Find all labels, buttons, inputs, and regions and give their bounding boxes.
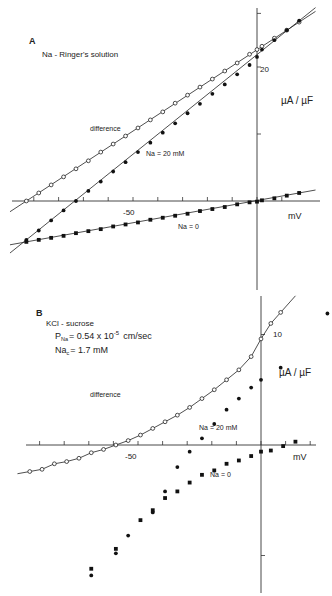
data-point-filled-square bbox=[223, 205, 227, 209]
panel-b-y-tick-label: 10 bbox=[273, 330, 282, 339]
data-point-filled-circle bbox=[99, 180, 103, 184]
data-point-open-circle bbox=[74, 167, 78, 171]
data-point-open-circle bbox=[102, 448, 106, 452]
data-point-filled-circle bbox=[326, 312, 330, 316]
data-point-filled-circle bbox=[297, 19, 301, 23]
data-point-filled-circle bbox=[126, 534, 130, 538]
data-point-filled-square bbox=[249, 454, 253, 458]
data-point-open-circle bbox=[126, 439, 130, 443]
data-point-filled-circle bbox=[223, 83, 227, 87]
data-point-open-circle bbox=[114, 443, 118, 447]
data-point-filled-square bbox=[86, 229, 90, 233]
panel-b-label-na0: Na = 0 bbox=[210, 471, 231, 478]
data-point-filled-circle bbox=[37, 229, 41, 233]
data-point-filled-circle bbox=[49, 219, 53, 223]
data-point-filled-square bbox=[37, 238, 41, 242]
data-point-filled-circle bbox=[163, 490, 167, 494]
data-point-filled-square bbox=[62, 234, 66, 238]
data-point-filled-circle bbox=[235, 72, 239, 76]
panel-a-y-unit: µA / µF bbox=[281, 95, 313, 106]
panel-b-label-difference: difference bbox=[90, 391, 121, 398]
data-point-open-circle bbox=[255, 48, 259, 52]
data-point-open-circle bbox=[223, 69, 227, 73]
data-point-open-circle bbox=[248, 52, 252, 56]
data-point-open-circle bbox=[139, 433, 143, 437]
data-point-filled-square bbox=[260, 198, 264, 202]
data-point-filled-square bbox=[136, 221, 140, 225]
data-point-filled-circle bbox=[136, 150, 140, 154]
data-point-filled-square bbox=[269, 449, 273, 453]
data-point-open-circle bbox=[136, 126, 140, 130]
data-point-filled-square bbox=[248, 200, 252, 204]
data-point-open-circle bbox=[99, 150, 103, 154]
data-point-filled-circle bbox=[249, 386, 253, 390]
data-point-open-circle bbox=[111, 142, 115, 146]
panel-b-pna: PNa= 0.54 x 10-5cm/sec bbox=[55, 330, 152, 342]
data-point-filled-circle bbox=[259, 378, 263, 382]
panel-a-chart: A Na - Ringer's solution difference Na =… bbox=[10, 8, 320, 290]
data-point-open-circle bbox=[89, 451, 93, 455]
data-point-filled-circle bbox=[74, 199, 78, 203]
panel-b-y-unit: µA / µF bbox=[279, 367, 311, 378]
data-point-filled-circle bbox=[285, 28, 289, 32]
data-point-open-circle bbox=[28, 470, 32, 474]
data-point-filled-square bbox=[89, 567, 93, 571]
data-point-filled-square bbox=[235, 202, 239, 206]
data-point-open-circle bbox=[77, 456, 81, 460]
data-point-open-circle bbox=[86, 159, 90, 163]
data-point-filled-square bbox=[297, 191, 301, 195]
data-point-open-circle bbox=[49, 183, 53, 187]
data-point-open-circle bbox=[151, 427, 155, 431]
data-point-filled-square bbox=[161, 216, 165, 220]
panel-a-label-difference: difference bbox=[90, 125, 121, 132]
data-point-open-circle bbox=[235, 61, 239, 65]
data-point-filled-circle bbox=[248, 63, 252, 67]
panel-a-label-na20: Na = 20 mM bbox=[146, 150, 184, 157]
data-point-filled-circle bbox=[272, 38, 276, 42]
data-point-open-circle bbox=[237, 368, 241, 372]
data-point-open-circle bbox=[161, 110, 165, 114]
panel-a-label-na0: Na = 0 bbox=[178, 223, 199, 230]
data-point-open-circle bbox=[173, 101, 177, 105]
panel-b-nac: Nac= 1.7 mM bbox=[55, 345, 108, 356]
data-point-filled-square bbox=[175, 490, 179, 494]
data-point-filled-square bbox=[188, 481, 192, 485]
data-point-filled-square bbox=[49, 236, 53, 240]
panel-a-x-unit: mV bbox=[288, 211, 302, 221]
data-point-filled-square bbox=[151, 508, 155, 512]
data-point-open-circle bbox=[52, 462, 56, 466]
data-point-filled-square bbox=[210, 207, 214, 211]
panel-b-x-unit: mV bbox=[293, 452, 307, 462]
data-point-filled-circle bbox=[111, 170, 115, 174]
data-point-open-circle bbox=[279, 311, 283, 315]
data-point-filled-circle bbox=[255, 55, 259, 59]
data-point-filled-circle bbox=[260, 48, 264, 52]
data-point-open-circle bbox=[249, 355, 253, 359]
data-point-filled-square bbox=[148, 218, 152, 222]
data-point-filled-square bbox=[111, 225, 115, 229]
data-point-filled-circle bbox=[175, 465, 179, 469]
data-point-filled-square bbox=[281, 444, 285, 448]
data-point-filled-square bbox=[139, 518, 143, 522]
data-point-filled-circle bbox=[237, 397, 241, 401]
data-point-filled-circle bbox=[161, 131, 165, 135]
data-point-filled-square bbox=[272, 196, 276, 200]
data-point-open-circle bbox=[260, 44, 264, 48]
figure: A Na - Ringer's solution difference Na =… bbox=[0, 0, 332, 596]
data-point-open-circle bbox=[186, 93, 190, 97]
data-point-filled-circle bbox=[173, 121, 177, 125]
data-point-filled-square bbox=[163, 496, 167, 500]
data-point-filled-square bbox=[200, 473, 204, 477]
data-point-filled-circle bbox=[198, 102, 202, 106]
data-point-filled-circle bbox=[62, 208, 66, 212]
panel-a-series bbox=[10, 8, 316, 253]
data-point-filled-square bbox=[74, 231, 78, 235]
data-point-filled-circle bbox=[210, 92, 214, 96]
data-point-filled-circle bbox=[114, 551, 118, 555]
data-point-filled-square bbox=[259, 450, 263, 454]
data-point-filled-square bbox=[237, 459, 241, 463]
data-point-open-circle bbox=[62, 175, 66, 179]
data-point-filled-square bbox=[124, 223, 128, 227]
data-point-filled-square bbox=[255, 200, 259, 204]
panel-b-chart: B KCl - sucrose PNa= 0.54 x 10-5cm/sec N… bbox=[17, 296, 329, 593]
